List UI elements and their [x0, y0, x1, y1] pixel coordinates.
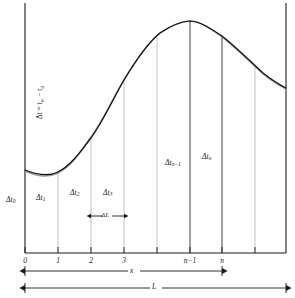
band-label-delta-t-n: Δtn — [202, 153, 211, 162]
x-axis-ticks — [25, 247, 255, 253]
band-label-delta-t-n-text: Δt — [202, 152, 209, 161]
band-label-delta-t-1: Δt1 — [36, 194, 45, 203]
x-dimension-arrow — [25, 266, 222, 276]
x-tick-label-n-minus-1: n−1 — [184, 256, 197, 265]
delta-l-label: ΔL — [101, 212, 109, 219]
y-axis-label: Δt = tw − ta — [35, 65, 44, 141]
band-label-delta-t-n-minus-1-text: Δt — [165, 158, 172, 167]
y-axis-label-sub-a: a — [39, 86, 45, 89]
band-label-delta-t-3-sub: 3 — [110, 191, 113, 197]
x-tick-label-3: 3 — [122, 256, 126, 265]
y-axis-label-sub-w: w — [39, 99, 45, 103]
plot-svg — [0, 0, 295, 298]
band-label-delta-t-0: Δt0 — [6, 196, 15, 205]
length-dimension-label-text: L — [152, 282, 156, 291]
band-label-delta-t-3-text: Δt — [103, 188, 110, 197]
y-axis-label-text: Δt = t — [35, 102, 44, 119]
band-label-delta-t-n-minus-1-sub: n−1 — [172, 161, 181, 167]
band-label-delta-t-0-text: Δt — [6, 195, 13, 204]
delta-l-label-text: ΔL — [101, 211, 109, 219]
x-tick-label-1: 1 — [56, 256, 60, 265]
x-tick-label-2: 2 — [89, 256, 93, 265]
band-label-delta-t-n-minus-1: Δtn−1 — [165, 159, 181, 168]
axis-frame — [25, 3, 286, 253]
band-label-delta-t-2-text: Δt — [70, 188, 77, 197]
band-label-delta-t-0-sub: 0 — [13, 198, 16, 204]
x-tick-label-n: n — [220, 256, 224, 265]
curve-underlay — [25, 21, 286, 176]
band-label-delta-t-1-sub: 1 — [43, 196, 46, 202]
curve-main — [25, 21, 286, 175]
x-dimension-label-text: x — [130, 266, 133, 275]
figure-container: Δt = tw − ta 0 1 2 3 n−1 n Δt0 Δt1 Δt2 Δ… — [0, 0, 295, 298]
length-dimension-label: L — [152, 283, 156, 291]
band-label-delta-t-3: Δt3 — [103, 189, 112, 198]
x-tick-label-0: 0 — [23, 256, 27, 265]
band-label-delta-t-n-sub: n — [209, 155, 212, 161]
y-axis-label-mid: − t — [35, 89, 44, 99]
band-label-delta-t-2: Δt2 — [70, 189, 79, 198]
gridlines — [58, 21, 255, 253]
band-label-delta-t-1-text: Δt — [36, 193, 43, 202]
x-dimension-label: x — [130, 267, 133, 275]
band-label-delta-t-2-sub: 2 — [77, 191, 80, 197]
